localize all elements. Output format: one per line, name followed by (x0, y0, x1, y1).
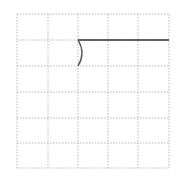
grid-lines (17, 14, 169, 168)
grid-diagram (0, 0, 177, 183)
arc-stroke (78, 40, 82, 66)
